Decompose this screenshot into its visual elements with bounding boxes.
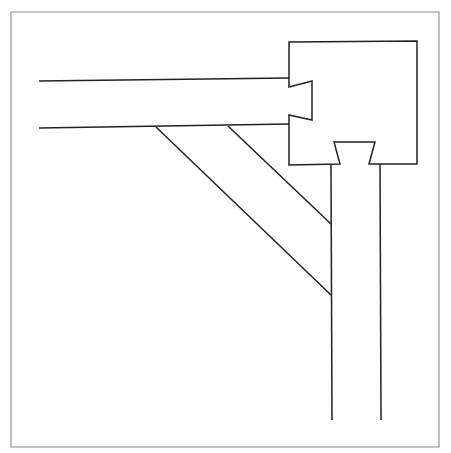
beam-top-edge <box>39 78 289 81</box>
corner-block <box>289 41 417 165</box>
post-left-edge <box>331 165 332 420</box>
post-right-edge <box>380 164 381 420</box>
beam-bottom-edge <box>39 124 289 128</box>
timber-joint-diagram <box>0 0 451 453</box>
